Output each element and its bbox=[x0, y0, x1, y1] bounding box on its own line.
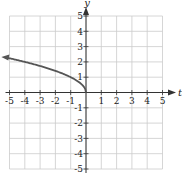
x-tick-label: 3 bbox=[129, 96, 135, 106]
y-tick-label: 2 bbox=[77, 57, 83, 67]
y-tick-label: -4 bbox=[74, 149, 83, 159]
x-tick-label: -2 bbox=[51, 96, 60, 106]
x-tick-label: -4 bbox=[20, 96, 29, 106]
y-tick-label: -5 bbox=[74, 164, 83, 174]
axes bbox=[6, 7, 177, 173]
curve-line bbox=[6, 57, 86, 92]
y-tick-label: 3 bbox=[77, 42, 83, 52]
y-tick-label: -3 bbox=[74, 134, 83, 144]
y-axis-label: y bbox=[83, 0, 90, 8]
x-tick-label: 2 bbox=[114, 96, 120, 106]
chart: -5-4-3-2-112345-5-4-3-2-112345 t y bbox=[0, 0, 182, 185]
x-axis-label: t bbox=[178, 87, 182, 98]
x-tick-label: -5 bbox=[5, 96, 14, 106]
x-tick-label: 5 bbox=[160, 96, 166, 106]
x-tick-label: 4 bbox=[144, 96, 150, 106]
x-tick-label: -3 bbox=[36, 96, 45, 106]
y-tick-label: -1 bbox=[74, 103, 83, 113]
y-tick-label: -2 bbox=[74, 118, 83, 128]
y-tick-label: 4 bbox=[77, 27, 83, 37]
y-tick-label: 5 bbox=[77, 11, 83, 21]
curve bbox=[1, 54, 86, 92]
arrow-left-icon bbox=[1, 54, 9, 60]
x-tick-label: 1 bbox=[98, 96, 104, 106]
